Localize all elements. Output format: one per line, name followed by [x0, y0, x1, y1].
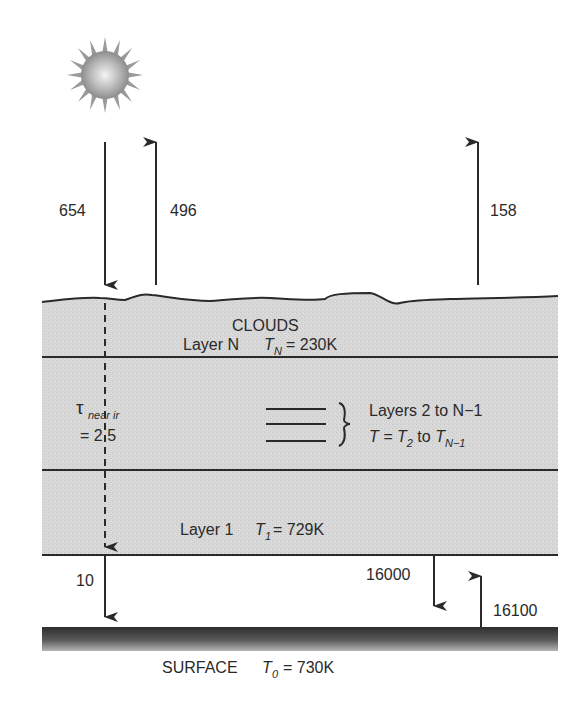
radiative-balance-diagram: 654 496 158 10 16000 16100 CLOUDS Layer … — [0, 0, 586, 706]
flux-label-surface-solar: 10 — [76, 572, 94, 589]
middle-layers-name: Layers 2 to N−1 — [369, 402, 483, 419]
layer-1-temp-sub: 1 — [265, 530, 271, 542]
layer-n-name: Layer N — [183, 336, 239, 353]
tau-symbol: τ — [76, 397, 84, 418]
t2-sub: 2 — [406, 437, 413, 449]
surface-label: SURFACE T 0 = 730K — [162, 659, 334, 680]
sun-icon — [67, 37, 143, 113]
flux-label-atm-down-ir: 16000 — [366, 566, 411, 583]
tn1-sub: N−1 — [445, 437, 466, 449]
flux-label-surface-up-ir: 16100 — [493, 602, 538, 619]
middle-temp-prefix: T = — [369, 428, 397, 445]
clouds-title: CLOUDS — [232, 317, 299, 334]
surface-temp-value: = 730K — [283, 659, 334, 676]
to-word: to — [413, 428, 435, 445]
surface-band — [42, 627, 558, 651]
layer-1-name: Layer 1 — [180, 521, 233, 538]
flux-label-ir-out: 158 — [490, 202, 517, 219]
flux-label-solar-in: 654 — [59, 202, 86, 219]
tau-value: = 2.5 — [80, 427, 116, 444]
cloud-region — [42, 293, 558, 555]
flux-label-reflected-out: 496 — [170, 202, 197, 219]
layer-n-temp-value: = 230K — [286, 336, 337, 353]
layer-1-temp-value: = 729K — [273, 521, 324, 538]
layer-n-temp-sub: N — [274, 345, 282, 357]
surface-name: SURFACE — [162, 659, 238, 676]
tau-sub: near ir — [88, 409, 121, 421]
surface-temp-sub: 0 — [272, 668, 279, 680]
